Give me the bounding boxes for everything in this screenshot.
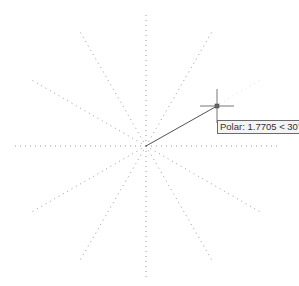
polar-guide-330 <box>146 146 260 212</box>
polar-guide-120 <box>80 32 146 146</box>
crosshair-cursor-icon <box>200 89 234 123</box>
polar-guide-240 <box>80 146 146 260</box>
polar-guide-210 <box>32 146 146 212</box>
polar-guide-300 <box>146 146 212 260</box>
polar-tooltip: Polar: 1.7705 < 30° <box>217 120 299 134</box>
polar-guide-60 <box>146 32 212 146</box>
rubber-band-line <box>146 106 217 146</box>
polar-guide-150 <box>32 80 146 146</box>
drawing-canvas[interactable]: Polar: 1.7705 < 30° <box>0 0 299 286</box>
polar-tracking-guides <box>0 0 299 286</box>
